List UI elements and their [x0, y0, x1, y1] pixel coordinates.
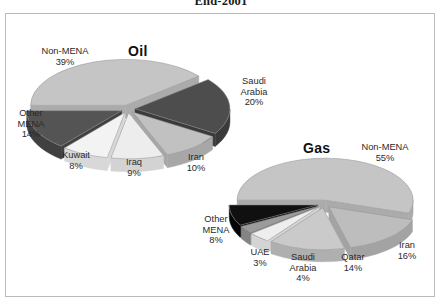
gas-label-non-mena-name: Non-MENA: [361, 142, 408, 152]
gas-label-other-mena: Other MENA 8%: [190, 214, 242, 246]
gas-label-other-mena-value: 8%: [190, 235, 242, 246]
gas-label-uae: UAE 3%: [239, 247, 281, 268]
gas-label-non-mena-value: 55%: [349, 153, 421, 164]
oil-label-iraq-value: 9%: [111, 168, 157, 179]
chart-frame: Oil Gas Non-MENA 39% Saudi Arabia 20% Ot…: [5, 13, 435, 297]
oil-label-saudi-arabia-name2: Arabia: [228, 87, 280, 98]
oil-label-iran: Iran 10%: [173, 152, 219, 173]
gas-label-uae-value: 3%: [239, 258, 281, 269]
oil-label-non-mena-name: Non-MENA: [41, 46, 88, 56]
oil-label-saudi-arabia-name: Saudi: [242, 76, 266, 86]
oil-label-iraq-name: Iraq: [126, 157, 142, 167]
oil-label-other-mena: Other MENA 14%: [5, 108, 57, 140]
oil-chart-title: Oil: [128, 43, 148, 59]
oil-label-kuwait-value: 8%: [48, 161, 104, 172]
gas-label-other-mena-name2: MENA: [190, 225, 242, 236]
oil-label-other-mena-name2: MENA: [5, 119, 57, 130]
oil-label-kuwait-name: Kuwait: [62, 150, 90, 160]
gas-label-qatar: Qatar 14%: [328, 252, 378, 273]
figure-root: End-2001 Oil Gas Non-MENA 39% Saudi Arab…: [0, 0, 442, 308]
oil-label-saudi-arabia: Saudi Arabia 20%: [228, 76, 280, 108]
gas-label-saudi-arabia: Saudi Arabia 4%: [278, 252, 328, 284]
gas-chart-title: Gas: [303, 140, 330, 156]
oil-label-other-mena-value: 14%: [5, 129, 57, 140]
gas-label-qatar-name: Qatar: [341, 252, 364, 262]
gas-label-non-mena: Non-MENA 55%: [349, 142, 421, 163]
gas-label-uae-name: UAE: [250, 247, 269, 257]
oil-label-saudi-arabia-value: 20%: [228, 97, 280, 108]
oil-label-other-mena-name: Other: [19, 108, 42, 118]
gas-label-saudi-arabia-name2: Arabia: [278, 263, 328, 274]
oil-label-iraq: Iraq 9%: [111, 157, 157, 178]
oil-label-non-mena: Non-MENA 39%: [29, 46, 101, 67]
gas-label-other-mena-name: Other: [204, 214, 227, 224]
oil-label-non-mena-value: 39%: [29, 57, 101, 68]
gas-label-saudi-arabia-value: 4%: [278, 273, 328, 284]
gas-label-qatar-value: 14%: [328, 263, 378, 274]
gas-label-iran-value: 16%: [384, 251, 430, 262]
gas-label-iran: Iran 16%: [384, 240, 430, 261]
gas-label-saudi-arabia-name: Saudi: [291, 252, 315, 262]
oil-label-iran-name: Iran: [188, 152, 204, 162]
gas-label-iran-name: Iran: [399, 240, 415, 250]
figure-caption: End-2001: [0, 0, 442, 5]
oil-label-iran-value: 10%: [173, 163, 219, 174]
oil-label-kuwait: Kuwait 8%: [48, 150, 104, 171]
